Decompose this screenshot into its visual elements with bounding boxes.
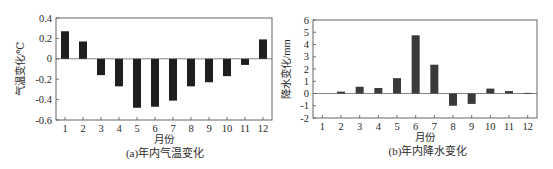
x-tick-label: 4	[376, 121, 382, 132]
x-tick-label: 12	[258, 123, 269, 134]
bar-month-9	[468, 94, 476, 104]
x-tick-label: 2	[80, 123, 85, 134]
x-tick-label: 12	[522, 121, 533, 132]
y-tick-label: 5	[304, 27, 309, 38]
bar-month-12	[524, 93, 532, 94]
bar-month-10	[486, 89, 494, 94]
y-tick-label: 3	[304, 51, 309, 62]
y-tick-label: 0	[304, 88, 309, 99]
bar-month-2	[337, 92, 345, 94]
x-tick-label: 10	[485, 121, 496, 132]
y-tick-label: -0.2	[35, 74, 52, 85]
x-tick-label: 6	[413, 121, 418, 132]
y-tick-label: -0.4	[35, 94, 52, 105]
y-tick-label: -2	[300, 113, 309, 124]
bar-month-11	[505, 91, 513, 93]
chart-caption: (b)年内降水变化	[389, 144, 468, 158]
x-tick-label: 6	[152, 123, 157, 134]
bar-month-9	[205, 59, 213, 82]
x-tick-label: 1	[320, 121, 325, 132]
precipitation-chart-panel: 6543210-1-2123456789101112降水变化/mm月份(b)年内…	[280, 0, 553, 169]
y-axis-label: 降水变化/mm	[280, 39, 292, 98]
x-tick-label: 7	[432, 121, 437, 132]
x-tick-label: 2	[338, 121, 343, 132]
x-tick-label: 4	[116, 123, 122, 134]
y-tick-label: -0.6	[35, 115, 52, 126]
x-tick-label: 11	[240, 123, 250, 134]
x-tick-label: 8	[188, 123, 193, 134]
x-tick-label: 5	[394, 121, 399, 132]
y-tick-label: 0	[47, 53, 52, 64]
bar-month-7	[430, 65, 438, 94]
y-tick-label: 2	[304, 64, 309, 75]
precipitation-chart: 6543210-1-2123456789101112降水变化/mm月份(b)年内…	[280, 0, 553, 169]
bar-month-7	[169, 59, 177, 101]
x-axis-label: 月份	[154, 134, 175, 145]
bar-month-12	[259, 39, 267, 58]
bar-month-11	[241, 59, 249, 65]
bar-month-8	[449, 94, 457, 106]
x-tick-label: 5	[134, 123, 139, 134]
bar-month-2	[79, 41, 87, 58]
bar-month-4	[374, 88, 382, 94]
bar-month-4	[115, 59, 123, 87]
bar-month-6	[412, 35, 420, 93]
y-tick-label: 1	[304, 76, 309, 87]
chart-caption: (a)年内气温变化	[126, 146, 204, 160]
x-tick-label: 3	[98, 123, 103, 134]
bar-month-10	[223, 59, 231, 76]
y-tick-label: 4	[304, 39, 310, 50]
x-tick-label: 7	[170, 123, 175, 134]
y-axis-label: 气温变化/℃	[14, 41, 26, 96]
plot-frame	[56, 18, 272, 120]
bar-month-6	[151, 59, 159, 107]
x-tick-label: 9	[469, 121, 474, 132]
y-tick-label: 6	[304, 15, 309, 26]
bar-month-5	[133, 59, 141, 108]
bar-month-5	[393, 78, 401, 93]
x-tick-label: 9	[206, 123, 211, 134]
x-tick-label: 11	[504, 121, 514, 132]
temperature-chart-panel: 0.40.20-0.2-0.4-0.6123456789101112气温变化/℃…	[0, 0, 280, 169]
x-tick-label: 10	[222, 123, 233, 134]
temperature-chart: 0.40.20-0.2-0.4-0.6123456789101112气温变化/℃…	[0, 0, 280, 169]
bar-month-3	[356, 87, 364, 94]
y-tick-label: 0.4	[39, 13, 53, 24]
x-tick-label: 3	[357, 121, 362, 132]
bar-month-8	[187, 59, 195, 87]
x-tick-label: 1	[62, 123, 67, 134]
bar-month-3	[97, 59, 105, 75]
y-tick-label: -1	[300, 100, 309, 111]
y-tick-label: 0.2	[39, 33, 52, 44]
plot-frame	[313, 20, 537, 118]
x-axis-label: 月份	[415, 132, 436, 143]
bar-month-1	[61, 31, 69, 59]
x-tick-label: 8	[450, 121, 455, 132]
